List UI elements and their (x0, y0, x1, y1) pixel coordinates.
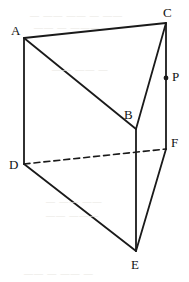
edge-BC (136, 23, 166, 129)
vertex-label-A: A (11, 24, 20, 37)
point-label-P: P (172, 70, 179, 83)
edge-layer (24, 23, 166, 251)
point-marker-layer (164, 76, 169, 81)
vertex-label-D: D (9, 158, 18, 171)
geometry-figure: ABCDEFP — —— —— — ———— — ————— —— —— —— … (0, 0, 189, 282)
edge-DE (24, 164, 136, 251)
vertex-label-C: C (163, 6, 172, 19)
point-marker-P (164, 76, 169, 81)
prism-drawing-canvas (0, 0, 189, 282)
edge-AC (24, 23, 166, 38)
vertex-label-B: B (124, 108, 133, 121)
edge-DF (24, 149, 166, 164)
edge-EF (136, 149, 166, 251)
vertex-label-F: F (171, 136, 178, 149)
edge-AB (24, 38, 136, 129)
vertex-label-E: E (131, 258, 139, 271)
